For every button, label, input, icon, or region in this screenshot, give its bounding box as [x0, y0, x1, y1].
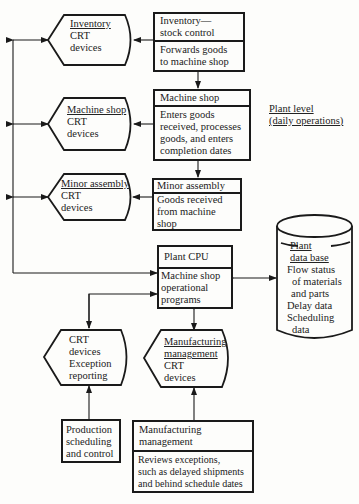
machine-shop-crt: Machine shop CRT devices — [67, 104, 126, 140]
minor-assembly-box: Minor assembly Goods received from machi… — [152, 178, 242, 231]
body-line: scheduling — [66, 436, 116, 448]
box-header: Machine shop — [155, 91, 249, 107]
machine-shop-box: Machine shop Enters goods received, proc… — [153, 89, 251, 161]
body-line: and control — [66, 448, 116, 460]
crt-line: devices — [70, 42, 111, 54]
production-box: Production scheduling and control — [61, 419, 121, 463]
database-title: data base — [290, 252, 329, 264]
body-line: completion dates — [160, 145, 244, 157]
body-line: Enters goods — [160, 109, 244, 121]
database-line: and parts — [287, 288, 342, 300]
crt-title: management — [164, 348, 226, 360]
crt-line: CRT — [70, 30, 111, 42]
crt-title: Manufacturing — [164, 336, 226, 348]
database-text: Plant data base — [290, 240, 329, 264]
box-header: Plant CPU — [159, 247, 231, 269]
mfg-mgmt-box: Manufacturing management Reviews excepti… — [132, 420, 254, 493]
plant-level-label: Plant level (daily operations) — [269, 103, 343, 127]
label-line: Plant level — [269, 103, 343, 115]
header-line: Machine shop — [160, 92, 244, 104]
body-line: goods, and enters — [160, 133, 244, 145]
inventory-crt: Inventory CRT devices — [70, 18, 111, 54]
database-line: Delay data — [287, 300, 342, 312]
body-line: to machine shop — [160, 56, 238, 68]
crt-line: CRT — [67, 116, 126, 128]
crt-title: Minor assembly — [61, 178, 129, 190]
box-body: Forwards goods to machine shop — [155, 42, 243, 70]
box-header: Manufacturing management — [134, 422, 252, 452]
body-line: Forwards goods — [160, 44, 238, 56]
body-line: shop — [157, 218, 237, 230]
body-line: Reviews exceptions, — [138, 454, 248, 466]
database-line: data — [287, 324, 342, 336]
crt-line: CRT — [61, 190, 129, 202]
crt-line: CRT — [69, 334, 112, 346]
body-line: Production — [66, 424, 116, 436]
crt-line: devices — [164, 372, 226, 384]
label-line: (daily operations) — [269, 115, 343, 127]
plant-cpu-box: Plant CPU Machine shop operational progr… — [157, 245, 233, 309]
crt-line: reporting — [69, 370, 112, 382]
crt-line: devices — [67, 128, 126, 140]
body-line: and behind schedule dates — [138, 478, 248, 490]
box-body: Production scheduling and control — [63, 421, 119, 463]
crt-title: Inventory — [70, 18, 111, 30]
database-line: of materials — [287, 276, 342, 288]
mfg-mgmt-crt: Manufacturing management CRT devices — [164, 336, 226, 384]
body-line: received, processes — [160, 121, 244, 133]
crt-line: CRT — [164, 360, 226, 372]
crt-title: Machine shop — [67, 104, 126, 116]
box-body: Enters goods received, processes goods, … — [155, 107, 249, 159]
body-line: programs — [161, 294, 229, 306]
header-line: Minor assembly — [157, 180, 237, 192]
body-line: such as delayed shipments — [138, 466, 248, 478]
database-line: Flow status — [287, 264, 342, 276]
header-line: Manufacturing — [139, 424, 247, 436]
body-line: from machine — [157, 206, 237, 218]
crt-line: Exception — [69, 358, 112, 370]
database-line: Scheduling — [287, 312, 342, 324]
header-line: Plant CPU — [164, 251, 226, 263]
crt-line: devices — [69, 346, 112, 358]
body-line: Goods received — [157, 194, 237, 206]
body-line: operational — [161, 282, 229, 294]
crt-line: devices — [61, 202, 129, 214]
box-header: Inventory— stock control — [155, 14, 243, 42]
database-contents: Flow status of materials and parts Delay… — [287, 264, 342, 336]
header-line: management — [139, 436, 247, 448]
header-line: Inventory— — [160, 15, 238, 27]
box-body: Reviews exceptions, such as delayed ship… — [134, 452, 252, 492]
box-header: Minor assembly — [154, 180, 240, 194]
body-line: Machine shop — [161, 270, 229, 282]
minor-assembly-crt: Minor assembly CRT devices — [61, 178, 129, 214]
database-title: Plant — [290, 240, 329, 252]
inventory-box: Inventory— stock control Forwards goods … — [153, 12, 245, 72]
box-body: Machine shop operational programs — [159, 269, 231, 307]
box-body: Goods received from machine shop — [154, 194, 240, 230]
exception-crt: CRT devices Exception reporting — [69, 334, 112, 382]
header-line: stock control — [160, 27, 238, 39]
